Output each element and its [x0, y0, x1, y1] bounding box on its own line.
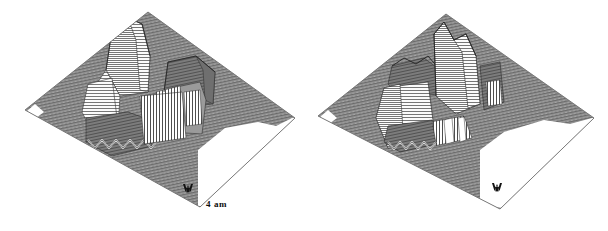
surface-panel-6am: 6 am — [304, 0, 608, 231]
surface-panel-4am: 4 am — [0, 0, 304, 231]
surface-plot-svg-6am — [304, 0, 608, 231]
surface-plot-figure: 4 am — [0, 0, 608, 231]
time-label-4am: 4 am — [206, 200, 227, 209]
surface-plot-svg-4am — [0, 0, 304, 231]
